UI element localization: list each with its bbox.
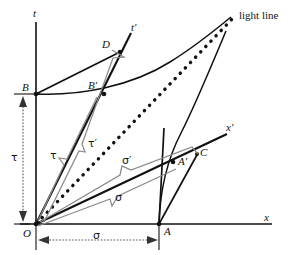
sigma-dimension-label: σ [93, 230, 100, 241]
tau-dimension-label: τ [11, 152, 18, 163]
diagram-canvas [0, 0, 291, 255]
light-line [37, 17, 234, 223]
point-a-label: A [164, 226, 171, 237]
spacetime-diagram: t x t′ x′ O A B C D A′ B′ τ τ′ σ σ′ τ σ … [0, 0, 291, 255]
origin-label: O [23, 228, 31, 239]
point-b-label: B [22, 82, 29, 93]
point-a-prime-label: A′ [178, 156, 187, 167]
t-prime-axis-label: t′ [131, 22, 136, 33]
tau-arrowhead-bottom [19, 211, 27, 222]
primed-axes-group [36, 33, 227, 224]
point-d-label: D [102, 39, 110, 50]
t-axis-label: t [33, 8, 36, 19]
sigma-arrowhead-left [38, 236, 49, 244]
point-marker-O [34, 222, 39, 227]
point-marker-B-prime [102, 92, 107, 97]
point-marker-A-prime [171, 160, 176, 165]
light-line-label: light line [239, 10, 278, 21]
tau-arrowhead-top [19, 96, 27, 107]
sigma-brace-label: σ [115, 192, 122, 203]
light-line-group [37, 17, 234, 223]
x-prime-axis-label: x′ [226, 122, 233, 133]
sigma-arrowhead-right [147, 236, 158, 244]
point-b-prime-label: B′ [88, 80, 97, 91]
point-marker-A [157, 222, 162, 227]
sigma-prime-brace-label: σ′ [122, 155, 131, 166]
point-c-label: C [200, 147, 207, 158]
space-hyperbola [159, 31, 226, 224]
x-axis-label: x [264, 212, 269, 223]
tau-brace-label: τ [50, 150, 57, 161]
brace-tau [38, 97, 97, 221]
tau-prime-brace-label: τ′ [88, 138, 97, 149]
